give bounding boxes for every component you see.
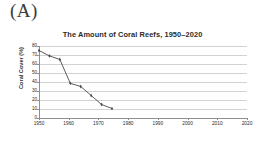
y-tick-mark	[37, 64, 39, 65]
series-line	[39, 50, 112, 108]
chart-title: The Amount of Coral Reefs, 1950–2020	[0, 30, 265, 39]
chart-figure: The Amount of Coral Reefs, 1950–2020 Cor…	[0, 30, 265, 150]
panel-label: (A)	[10, 1, 38, 20]
x-tick-label: 2000	[177, 122, 199, 127]
y-tick-label: 20	[25, 98, 37, 103]
x-tick-label: 1950	[28, 122, 50, 127]
y-tick-label: 10	[25, 107, 37, 112]
x-tick-label: 2020	[236, 122, 258, 127]
y-tick-label: 80	[25, 44, 37, 49]
y-tick-mark	[37, 118, 39, 119]
x-tick-label: 2010	[206, 122, 228, 127]
data-point-marker	[38, 49, 40, 53]
y-tick-mark	[37, 91, 39, 92]
x-tick-label: 1990	[147, 122, 169, 127]
plot-wrapper: Coral Cover (%) 80706050403020100 195019…	[0, 44, 265, 150]
x-tick-label: 1980	[117, 122, 139, 127]
x-tick-mark	[158, 118, 159, 120]
y-tick-label: 60	[25, 62, 37, 67]
y-tick-label: 40	[25, 80, 37, 85]
y-tick-mark	[37, 109, 39, 110]
y-tick-mark	[37, 100, 39, 101]
y-tick-mark	[37, 55, 39, 56]
y-tick-label: 30	[25, 89, 37, 94]
data-point-marker	[80, 85, 82, 89]
x-tick-label: 1970	[87, 122, 109, 127]
data-series-coral-cover	[39, 46, 112, 119]
y-tick-label: 0	[25, 116, 37, 121]
data-point-marker	[101, 103, 103, 107]
x-tick-label: 1960	[58, 122, 80, 127]
data-point-marker	[90, 94, 92, 98]
x-tick-mark	[247, 118, 248, 120]
x-tick-mark	[188, 118, 189, 120]
y-tick-label: 70	[25, 53, 37, 58]
x-tick-mark	[128, 118, 129, 120]
y-tick-label: 50	[25, 71, 37, 76]
x-tick-mark	[217, 118, 218, 120]
series-markers	[38, 49, 113, 111]
y-axis-tick-labels: 80706050403020100	[23, 46, 37, 118]
y-tick-mark	[37, 82, 39, 83]
y-tick-mark	[37, 46, 39, 47]
x-axis-tick-labels: 19501960197019801990200020102020	[39, 118, 247, 132]
data-point-marker	[48, 54, 50, 58]
y-tick-mark	[37, 73, 39, 74]
